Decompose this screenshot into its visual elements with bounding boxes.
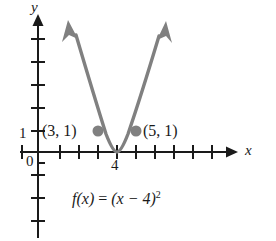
y-axis-arrowhead	[33, 14, 44, 26]
x-tick-label-4: 4	[111, 158, 119, 173]
x-axis-label: x	[245, 143, 252, 158]
equation-body: (x − 4)	[111, 190, 156, 207]
equation-exponent: 2	[156, 189, 161, 200]
parabola-figure: y x 1 0 4 (3, 1) (5, 1) f(x) = (x − 4)2	[0, 0, 276, 241]
point-5-1-marker	[131, 126, 142, 137]
y-tick-label-1: 1	[19, 126, 27, 141]
point-label-5-1: (5, 1)	[143, 123, 178, 139]
equation-equals: =	[98, 190, 107, 207]
point-3-1-marker	[93, 126, 104, 137]
equation-prefix: f(x)	[72, 190, 94, 207]
y-axis-label: y	[31, 0, 38, 15]
x-axis-arrowhead	[226, 147, 238, 158]
point-label-3-1: (3, 1)	[42, 123, 77, 139]
origin-label-0: 0	[26, 154, 34, 169]
equation-label: f(x) = (x − 4)2	[72, 190, 161, 207]
